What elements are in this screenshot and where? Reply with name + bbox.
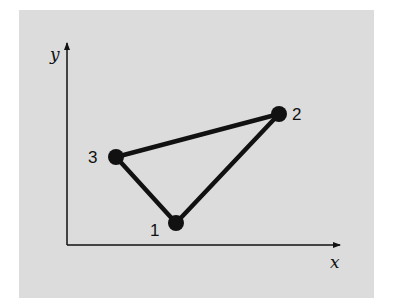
- edge-2-3: [116, 114, 279, 157]
- point-label-2: 2: [292, 105, 301, 124]
- x-axis-label: x: [330, 252, 340, 272]
- point-3: [108, 149, 124, 165]
- point-label-3: 3: [88, 148, 97, 167]
- y-axis-label: y: [49, 44, 60, 64]
- edge-1-2: [176, 114, 279, 223]
- edge-3-1: [116, 157, 176, 223]
- point-label-1: 1: [150, 221, 159, 240]
- point-1: [168, 215, 184, 231]
- point-2: [271, 106, 287, 122]
- triangle-edges: [116, 114, 279, 223]
- triangle-diagram: y x 1 2 3: [0, 0, 393, 307]
